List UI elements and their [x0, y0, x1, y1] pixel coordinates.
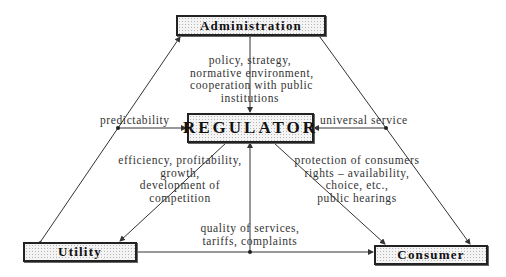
label-line: tariffs, complaints	[190, 235, 310, 248]
node-utility: Utility	[23, 242, 137, 262]
label-line: choice, etc.,	[282, 179, 432, 192]
label-universal-service: universal service	[320, 114, 408, 127]
label-utility-consumer: quality of services, tariffs, complaints	[190, 222, 310, 247]
label-line: quality of services,	[190, 222, 310, 235]
label-admin-regulator: policy, strategy, normative environment,…	[190, 54, 310, 104]
node-regulator-label: REGULATOR	[183, 118, 318, 138]
node-consumer: Consumer	[374, 245, 488, 265]
label-line: public hearings	[282, 192, 432, 205]
label-regulator-utility: efficiency, profitability, growth, devel…	[110, 154, 250, 204]
junction-dot-predictability	[116, 126, 120, 130]
label-predictability: predictability	[100, 114, 170, 127]
label-line: growth,	[110, 167, 250, 180]
label-line: normative environment,	[190, 67, 310, 80]
edge-utility-administration	[41, 37, 180, 241]
label-regulator-consumer: protection of consumers rights – availab…	[282, 154, 432, 204]
label-line: institutions	[190, 92, 310, 105]
junction-dot-universal-service	[384, 126, 388, 130]
node-administration-label: Administration	[200, 18, 302, 34]
label-line: rights – availability,	[282, 167, 432, 180]
junction-dot-service-quality	[248, 250, 252, 254]
node-administration: Administration	[176, 15, 326, 36]
label-line: protection of consumers	[282, 154, 432, 167]
label-line: policy, strategy,	[190, 54, 310, 67]
label-line: cooperation with public	[190, 79, 310, 92]
node-consumer-label: Consumer	[397, 247, 464, 263]
label-line: efficiency, profitability,	[110, 154, 250, 167]
label-line: competition	[110, 192, 250, 205]
edge-administration-consumer	[320, 37, 470, 244]
node-utility-label: Utility	[58, 244, 102, 260]
label-line: development of	[110, 179, 250, 192]
node-regulator: REGULATOR	[187, 113, 314, 143]
